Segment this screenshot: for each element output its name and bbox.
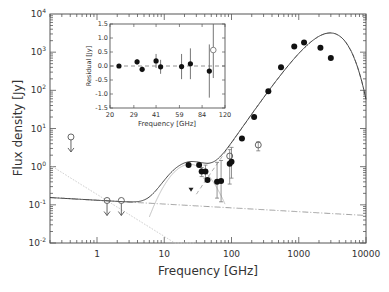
- inset-x-tick-label: 29: [130, 111, 138, 119]
- inset-x-axis-label: Frequency [GHz]: [138, 120, 196, 128]
- upper-limit-point: [118, 197, 124, 203]
- sed-chart: 11010010001000010-210-1100101102103104 2…: [0, 0, 389, 292]
- residual-point: [207, 68, 212, 73]
- inset-x-tick-label: 84: [198, 111, 206, 119]
- data-point: [317, 45, 323, 51]
- data-point: [205, 177, 211, 183]
- inset-y-tick-label: 0.5: [98, 48, 108, 56]
- y-tick-label: 10-2: [29, 236, 47, 248]
- inset-x-tick-label: 120: [219, 111, 231, 119]
- x-axis-label: Frequency [GHz]: [158, 264, 258, 278]
- synchrotron-curve: [50, 165, 196, 243]
- inset-y-axis-label: Residual [Jy]: [85, 46, 93, 86]
- x-tick-label: 1000: [287, 249, 310, 259]
- data-point: [278, 64, 284, 70]
- residual-point: [134, 59, 139, 64]
- inset-y-tick-label: 1.0: [98, 34, 108, 42]
- residual-point: [153, 58, 158, 63]
- data-point: [239, 135, 245, 141]
- data-point: [265, 88, 271, 94]
- residual-inset: 20294159841201.51.00.50.0-0.5-1.0-1.5: [95, 20, 231, 119]
- triangle-point: [189, 188, 194, 192]
- x-tick-label: 10000: [352, 249, 381, 259]
- x-tick-label: 100: [223, 249, 240, 259]
- inset-x-tick-label: 59: [175, 111, 183, 119]
- x-tick-label: 10: [159, 249, 171, 259]
- data-point: [196, 162, 202, 168]
- upper-limit-point: [68, 134, 74, 140]
- residual-point: [179, 64, 184, 69]
- residual-point: [188, 61, 193, 66]
- spinning-dust-curve: [149, 164, 225, 217]
- data-point: [301, 39, 307, 45]
- data-point: [202, 168, 208, 174]
- inset-y-tick-label: 1.5: [98, 20, 108, 28]
- inset-x-tick-label: 41: [152, 111, 160, 119]
- data-point: [186, 162, 192, 168]
- residual-point: [140, 67, 145, 72]
- y-axis-label: Flux density [Jy]: [11, 80, 25, 177]
- y-tick-label: 10-1: [29, 198, 47, 210]
- y-tick-label: 102: [31, 83, 46, 95]
- inset-y-tick-label: -1.5: [95, 104, 108, 112]
- residual-point: [158, 64, 163, 69]
- y-tick-label: 101: [31, 122, 46, 134]
- data-point: [328, 55, 334, 61]
- x-tick-label: 1: [94, 249, 100, 259]
- y-tick-label: 104: [31, 7, 46, 19]
- y-tick-label: 103: [31, 45, 46, 57]
- inset-y-tick-label: -0.5: [95, 76, 108, 84]
- data-point: [229, 159, 235, 165]
- data-point: [251, 114, 257, 120]
- data-point: [291, 44, 297, 50]
- inset-y-tick-label: 0.0: [98, 62, 108, 70]
- inset-y-tick-label: -1.0: [95, 90, 108, 98]
- data-point: [218, 178, 224, 184]
- residual-open-point: [210, 47, 216, 53]
- residual-point: [116, 63, 121, 68]
- y-tick-label: 100: [31, 160, 46, 172]
